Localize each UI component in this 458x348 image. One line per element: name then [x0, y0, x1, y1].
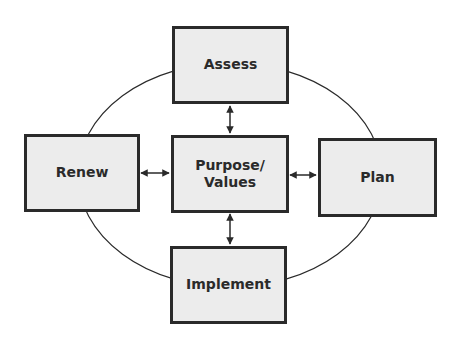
node-plan: Plan [318, 138, 437, 217]
node-purpose-values: Purpose/ Values [171, 135, 289, 213]
center-label-line1: Purpose/ [195, 157, 265, 175]
node-assess-label: Assess [204, 56, 258, 74]
node-implement: Implement [170, 246, 287, 324]
node-implement-label: Implement [186, 276, 271, 294]
node-assess: Assess [172, 26, 289, 104]
node-renew-label: Renew [56, 164, 109, 182]
center-label-line2: Values [204, 174, 256, 192]
node-plan-label: Plan [360, 169, 394, 187]
node-renew: Renew [24, 134, 140, 212]
